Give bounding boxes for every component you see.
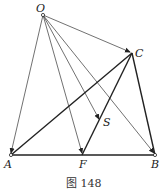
label-b: B (150, 158, 159, 171)
point-b (153, 153, 156, 156)
label-s: S (103, 116, 111, 129)
segment-o-s (43, 15, 99, 119)
figure-caption: 图 148 (66, 177, 102, 190)
segment-o-f (43, 15, 82, 153)
segment-o-c (43, 15, 130, 52)
segment-o-b (43, 15, 154, 153)
point-a (9, 153, 12, 156)
label-f: F (78, 158, 87, 171)
segment-f-c (82, 53, 132, 155)
label-o: O (36, 2, 45, 15)
label-c: C (135, 47, 144, 60)
label-a: A (3, 158, 12, 171)
geometry-figure: O C S A F B 图 148 (0, 0, 164, 190)
